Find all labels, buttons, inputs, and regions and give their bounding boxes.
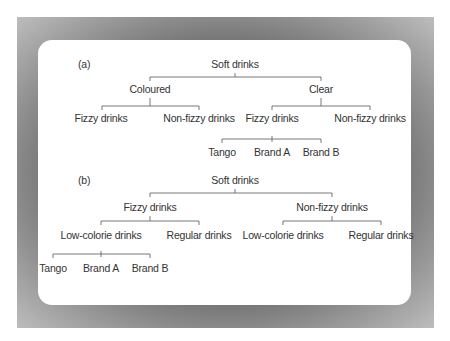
node-b-tango: Tango [39,262,67,274]
node-b-lowcal-1: Low-colorie drinks [60,229,141,241]
node-a-nonfizzy-1: Non-fizzy drinks [163,112,234,124]
node-root-a: Soft drinks [211,58,258,70]
node-coloured: Coloured [129,83,170,95]
panel-label-b: (b) [78,174,90,186]
node-a-fizzy-2: Fizzy drinks [245,112,298,124]
node-b-nonfizzy: Non-fizzy drinks [296,201,367,213]
node-b-regular-2: Regular drinks [349,229,414,241]
node-a-fizzy-1: Fizzy drinks [74,112,127,124]
node-root-b: Soft drinks [211,174,258,186]
panel-label-a: (a) [78,58,90,70]
node-a-brand-b: Brand B [303,146,340,158]
node-b-brand-a: Brand A [83,262,119,274]
node-a-brand-a: Brand A [254,146,290,158]
node-a-tango: Tango [208,146,236,158]
node-clear: Clear [309,83,333,95]
node-b-lowcal-2: Low-colorie drinks [242,229,323,241]
node-b-brand-b: Brand B [132,262,169,274]
node-a-nonfizzy-2: Non-fizzy drinks [334,112,405,124]
tree-connectors [0,0,450,341]
node-b-fizzy: Fizzy drinks [123,201,176,213]
node-b-regular-1: Regular drinks [167,229,232,241]
